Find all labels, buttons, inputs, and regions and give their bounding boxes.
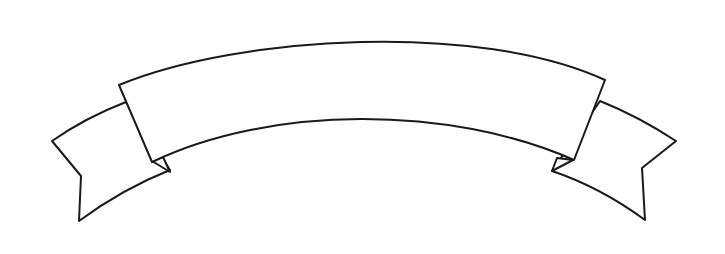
ribbon-banner-graphic [0, 0, 725, 254]
ribbon-banner-canvas [0, 0, 725, 254]
ribbon-main-band [119, 42, 605, 162]
